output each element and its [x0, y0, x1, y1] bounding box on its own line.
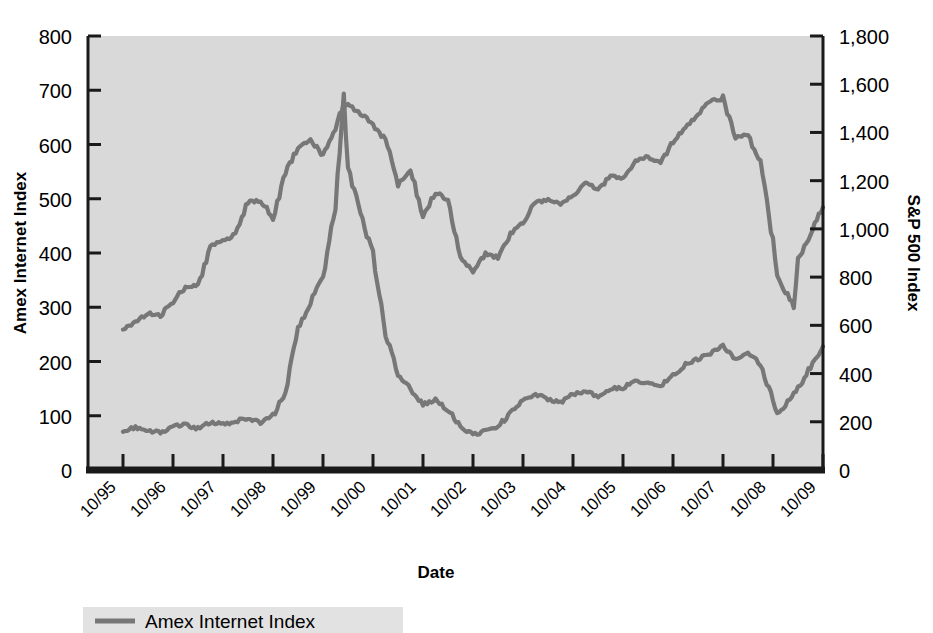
- left-tick-label: 300: [39, 297, 72, 319]
- left-axis-tick-labels: 0100200300400500600700800: [39, 26, 72, 482]
- left-tick-label: 700: [39, 80, 72, 102]
- legend: Amex Internet Index: [83, 607, 403, 633]
- right-tick-label: 1,200: [839, 171, 889, 193]
- right-tick-label: 1,600: [839, 74, 889, 96]
- left-tick-label: 800: [39, 26, 72, 48]
- right-tick-label: 1,800: [839, 26, 889, 48]
- left-tick-label: 0: [61, 460, 72, 482]
- right-tick-label: 0: [839, 460, 850, 482]
- left-tick-label: 400: [39, 243, 72, 265]
- right-tick-label: 1,000: [839, 219, 889, 241]
- left-tick-label: 500: [39, 189, 72, 211]
- right-axis-title: S&P 500 Index: [904, 195, 923, 312]
- chart-figure: 0100200300400500600700800 02004006008001…: [0, 0, 933, 633]
- x-axis-title: Date: [418, 563, 455, 582]
- right-tick-label: 600: [839, 315, 872, 337]
- left-tick-label: 100: [39, 406, 72, 428]
- right-tick-label: 400: [839, 364, 872, 386]
- legend-label-amex-internet-index: Amex Internet Index: [145, 611, 316, 632]
- left-tick-label: 600: [39, 135, 72, 157]
- left-tick-label: 200: [39, 352, 72, 374]
- right-tick-label: 800: [839, 267, 872, 289]
- right-tick-label: 1,400: [839, 122, 889, 144]
- left-axis-title: Amex Internet Index: [11, 171, 30, 334]
- right-tick-label: 200: [839, 412, 872, 434]
